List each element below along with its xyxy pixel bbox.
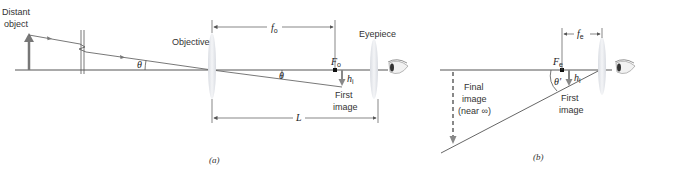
svg-text:hi: hi	[574, 72, 581, 84]
ray-to-objective	[86, 52, 212, 70]
svg-text:Fe: Fe	[552, 56, 563, 68]
ray-break-zigzag	[79, 44, 86, 52]
panel-a: θ θ Objective fo Fo hi First image Eyepi…	[2, 7, 408, 165]
eye-icon	[388, 60, 408, 74]
final-image-arrow	[450, 72, 457, 144]
final-image-label-3: (near ∞)	[458, 106, 491, 116]
focal-length-sub-b: e	[580, 33, 584, 40]
panel-b: Final image (near ∞) θ′ Fe hi First imag…	[440, 28, 635, 162]
length-label: L	[295, 112, 302, 123]
final-image-label-2: image	[462, 94, 487, 104]
focal-point-sub: o	[337, 61, 341, 68]
focal-point-dot	[333, 68, 337, 72]
focal-length-dimension-b: fe	[562, 28, 602, 70]
axis-break	[81, 30, 84, 74]
eye-icon-b	[615, 60, 635, 74]
eyepiece-label: Eyepiece	[359, 29, 396, 39]
objective-label: Objective	[172, 37, 210, 47]
incoming-ray	[29, 35, 80, 44]
ray-direction-icon	[47, 36, 52, 40]
final-image-label-1: Final	[464, 82, 484, 92]
first-image-label-2: image	[333, 102, 358, 112]
distant-object-arrow	[24, 33, 34, 70]
first-image-label-b-1: First	[561, 93, 579, 103]
theta-prime-label: θ′	[554, 76, 562, 87]
distant-object-label-1: Distant	[2, 7, 31, 17]
theta-label: θ	[137, 59, 142, 70]
theta-label-2: θ	[279, 70, 284, 81]
image-height-sub: i	[352, 78, 354, 85]
ray-to-first-image	[212, 70, 342, 87]
first-image-label-1: First	[335, 90, 353, 100]
focal-length-sub: o	[274, 27, 278, 34]
focal-length-dimension: fo	[212, 20, 335, 70]
svg-text:Fo: Fo	[330, 56, 341, 68]
theta-arc	[145, 61, 146, 71]
distant-object-label-2: object	[4, 19, 29, 29]
panel-b-caption: (b)	[533, 152, 544, 162]
svg-text:hi: hi	[347, 73, 354, 85]
eyepiece-lens	[370, 39, 378, 99]
panel-a-caption: (a)	[209, 155, 220, 165]
svg-text:fo: fo	[271, 22, 278, 34]
first-image-arrow	[339, 70, 346, 86]
first-image-arrow-b	[566, 70, 573, 86]
focal-point-sub-b: e	[559, 61, 563, 68]
telescope-diagram: θ θ Objective fo Fo hi First image Eyepi…	[0, 0, 683, 177]
first-image-label-b-2: image	[559, 105, 584, 115]
svg-text:fe: fe	[577, 28, 584, 40]
eyepiece-lens-b	[598, 37, 606, 95]
